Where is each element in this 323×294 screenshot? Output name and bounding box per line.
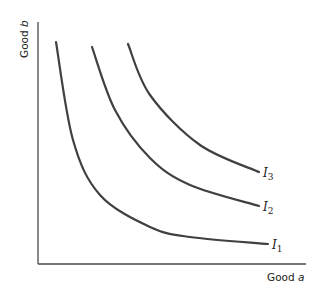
curve-label-i2: I2 <box>262 200 273 216</box>
curve-label-i1: I1 <box>271 238 282 254</box>
indifference-curve-i3 <box>128 44 259 172</box>
indifference-curves-diagram: Good b Good a I1 I2 I3 <box>0 0 323 294</box>
y-axis-label: Good b <box>18 20 30 58</box>
indifference-curve-i2 <box>92 47 259 206</box>
curve-label-i3: I3 <box>262 166 274 182</box>
indifference-curve-i1 <box>56 42 268 244</box>
x-axis-label: Good a <box>267 271 304 283</box>
